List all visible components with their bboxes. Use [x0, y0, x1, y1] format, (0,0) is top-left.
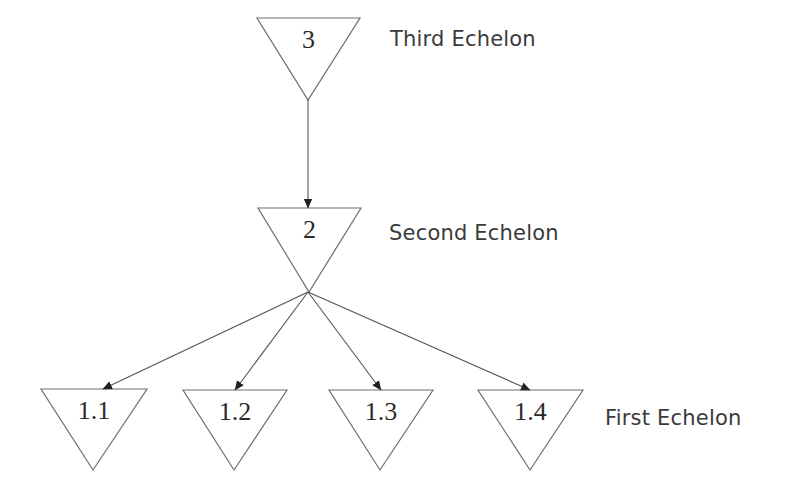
arrow-2-to-1.3: [308, 292, 381, 390]
node-label: 1.4: [514, 397, 547, 426]
node-label: 2: [303, 215, 316, 244]
node-2: 2: [258, 208, 361, 292]
echelon-label-third: Third Echelon: [390, 27, 536, 51]
echelon-label-first: First Echelon: [605, 406, 742, 430]
node-3: 3: [257, 18, 360, 100]
node-label: 3: [302, 25, 315, 54]
echelon-diagram: 321.11.21.31.4 Third Echelon Second Eche…: [0, 0, 786, 495]
node-label: 1.1: [78, 396, 111, 425]
node-label: 1.3: [365, 397, 398, 426]
echelon-label-second: Second Echelon: [389, 221, 559, 245]
arrow-2-to-1.4: [308, 292, 530, 390]
node-1-3: 1.3: [329, 390, 433, 470]
arrow-2-to-1.2: [235, 292, 308, 390]
node-1-4: 1.4: [478, 390, 583, 470]
arrow-2-to-1.1: [103, 292, 308, 389]
node-label: 1.2: [219, 397, 252, 426]
node-1-1: 1.1: [41, 389, 147, 470]
node-1-2: 1.2: [183, 390, 287, 470]
